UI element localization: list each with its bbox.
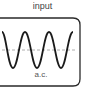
ac-waveform-diagram	[0, 0, 85, 95]
ac-label: a.c.	[0, 70, 82, 79]
